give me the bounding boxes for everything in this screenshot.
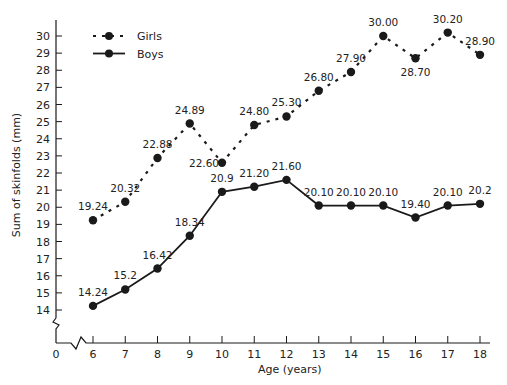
data-point — [250, 121, 258, 129]
data-label: 21.60 — [271, 160, 301, 172]
x-tick-label: 9 — [186, 348, 193, 361]
skinfolds-line-chart: 1415161718192021222324252627282930067891… — [0, 0, 507, 385]
y-tick-label: 26 — [36, 99, 50, 112]
x-tick-label: 12 — [280, 348, 294, 361]
data-point — [282, 112, 290, 120]
data-label: 20.2 — [468, 184, 491, 196]
data-label: 20.10 — [336, 186, 366, 198]
data-label: 15.2 — [114, 269, 137, 281]
y-tick-label: 17 — [36, 253, 50, 266]
data-point — [476, 200, 484, 208]
data-point — [347, 68, 355, 76]
data-point — [89, 216, 97, 224]
x-tick-label: 8 — [154, 348, 161, 361]
x-tick-label: 17 — [441, 348, 455, 361]
x-tick-label: 10 — [215, 348, 229, 361]
data-label: 30.00 — [368, 16, 398, 28]
y-tick-label: 27 — [36, 81, 50, 94]
data-label: 26.80 — [304, 71, 334, 83]
data-point — [218, 159, 226, 167]
data-point — [153, 264, 161, 272]
data-label: 24.80 — [239, 105, 269, 117]
data-label: 20.10 — [433, 186, 463, 198]
x-tick-label: 0 — [53, 348, 60, 361]
data-point — [282, 176, 290, 184]
data-point — [379, 32, 387, 40]
x-tick-label: 14 — [344, 348, 358, 361]
data-point — [315, 201, 323, 209]
data-label: 28.90 — [465, 35, 495, 47]
data-point — [315, 87, 323, 95]
y-axis-break — [53, 318, 59, 343]
y-tick-label: 23 — [36, 150, 50, 163]
data-label: 24.89 — [175, 104, 205, 116]
y-tick-label: 21 — [36, 184, 50, 197]
y-axis-title: Sum of skinfolds (mm) — [10, 113, 23, 237]
data-point — [379, 201, 387, 209]
data-label: 21.20 — [239, 167, 269, 179]
series-line-girls — [93, 33, 480, 221]
y-tick-label: 22 — [36, 167, 50, 180]
x-tick-label: 6 — [90, 348, 97, 361]
data-label: 27.90 — [336, 52, 366, 64]
y-tick-label: 18 — [36, 236, 50, 249]
y-tick-label: 14 — [36, 304, 50, 317]
data-point — [121, 285, 129, 293]
x-tick-label: 7 — [122, 348, 129, 361]
data-point — [121, 198, 129, 206]
data-label: 28.70 — [400, 66, 430, 78]
data-point — [476, 51, 484, 59]
data-label: 20.32 — [110, 182, 140, 194]
data-label: 30.20 — [433, 13, 463, 25]
data-point — [411, 213, 419, 221]
y-tick-label: 20 — [36, 201, 50, 214]
data-point — [250, 183, 258, 191]
data-label: 19.40 — [400, 198, 430, 210]
data-label: 22.60 — [189, 157, 219, 169]
x-axis-title: Age (years) — [258, 363, 322, 376]
data-label: 20.10 — [368, 186, 398, 198]
data-point — [347, 201, 355, 209]
data-point — [411, 54, 419, 62]
y-tick-label: 19 — [36, 218, 50, 231]
legend-marker — [105, 50, 113, 58]
y-tick-label: 25 — [36, 116, 50, 129]
legend-marker — [105, 32, 113, 40]
y-tick-label: 30 — [36, 30, 50, 43]
legend-label-girls: Girls — [137, 30, 162, 43]
x-tick-label: 11 — [247, 348, 261, 361]
data-point — [444, 28, 452, 36]
data-point — [153, 154, 161, 162]
x-tick-label: 18 — [473, 348, 487, 361]
data-point — [444, 201, 452, 209]
data-point — [218, 188, 226, 196]
data-label: 22.88 — [142, 138, 172, 150]
data-label: 18.34 — [175, 216, 205, 228]
data-label: 25.30 — [271, 96, 301, 108]
data-label: 19.24 — [78, 200, 108, 212]
data-point — [186, 231, 194, 239]
legend-label-boys: Boys — [137, 48, 164, 61]
y-tick-label: 24 — [36, 133, 50, 146]
x-tick-label: 13 — [312, 348, 326, 361]
data-label: 20.10 — [304, 186, 334, 198]
x-tick-label: 15 — [376, 348, 390, 361]
legend: GirlsBoys — [93, 30, 164, 61]
y-tick-label: 15 — [36, 287, 50, 300]
data-point — [89, 302, 97, 310]
data-label: 20.9 — [210, 172, 233, 184]
y-tick-label: 28 — [36, 64, 50, 77]
data-label: 16.42 — [142, 249, 172, 261]
y-tick-label: 29 — [36, 47, 50, 60]
data-label: 14.24 — [78, 286, 108, 298]
y-tick-label: 16 — [36, 270, 50, 283]
x-tick-label: 16 — [409, 348, 423, 361]
data-point — [186, 119, 194, 127]
